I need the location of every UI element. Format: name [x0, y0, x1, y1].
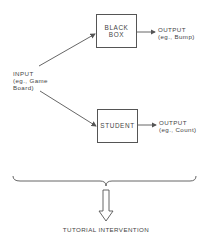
black-box-output-line2: (eg., Bump) [158, 33, 195, 40]
student-output-label: OUTPUT (eg., Count) [159, 119, 196, 133]
black-box-line1: BLACK [105, 24, 129, 32]
black-box-output-line1: OUTPUT [158, 26, 195, 33]
arrow-input-to-blackbox [39, 34, 95, 66]
black-box: BLACK BOX [96, 14, 137, 48]
input-label-line1: INPUT [13, 70, 48, 77]
student-box-label: STUDENT [100, 122, 134, 130]
input-label: INPUT (eg., Game Board) [13, 70, 48, 91]
black-box-line2: BOX [105, 31, 129, 39]
black-box-label: BLACK BOX [105, 24, 129, 39]
student-output-line2: (eg., Count) [159, 126, 196, 133]
student-output-line1: OUTPUT [159, 119, 196, 126]
hollow-down-arrow [99, 190, 113, 221]
input-label-line2: (eg., Game [13, 77, 48, 84]
arrow-input-to-student [40, 91, 96, 126]
input-label-line3: Board) [13, 84, 48, 91]
black-box-output-label: OUTPUT (eg., Bump) [158, 26, 195, 40]
curly-brace [13, 176, 196, 186]
student-box: STUDENT [97, 109, 138, 143]
tutorial-intervention-label: TUTORIAL INTERVENTION [0, 226, 204, 233]
